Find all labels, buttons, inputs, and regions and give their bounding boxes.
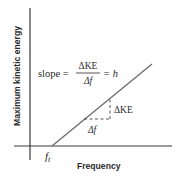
slope-suffix: = h (103, 68, 118, 79)
graph-canvas: Maximum kinetic energy Frequency ft slop… (0, 0, 181, 180)
delta-ke-label: ΔKE (114, 105, 133, 115)
delta-f-label: Δf (87, 125, 98, 135)
slope-prefix: slope = (38, 68, 69, 79)
slope-denominator: Δf (83, 76, 94, 86)
slope-equation: slope = ΔKE Δf = h (38, 61, 118, 86)
slope-numerator: ΔKE (79, 61, 98, 71)
threshold-frequency-label: ft (45, 150, 51, 164)
photoelectric-graph: Maximum kinetic energy Frequency ft slop… (0, 0, 181, 180)
y-axis-label: Maximum kinetic energy (12, 26, 22, 126)
x-axis-label: Frequency (77, 161, 121, 171)
